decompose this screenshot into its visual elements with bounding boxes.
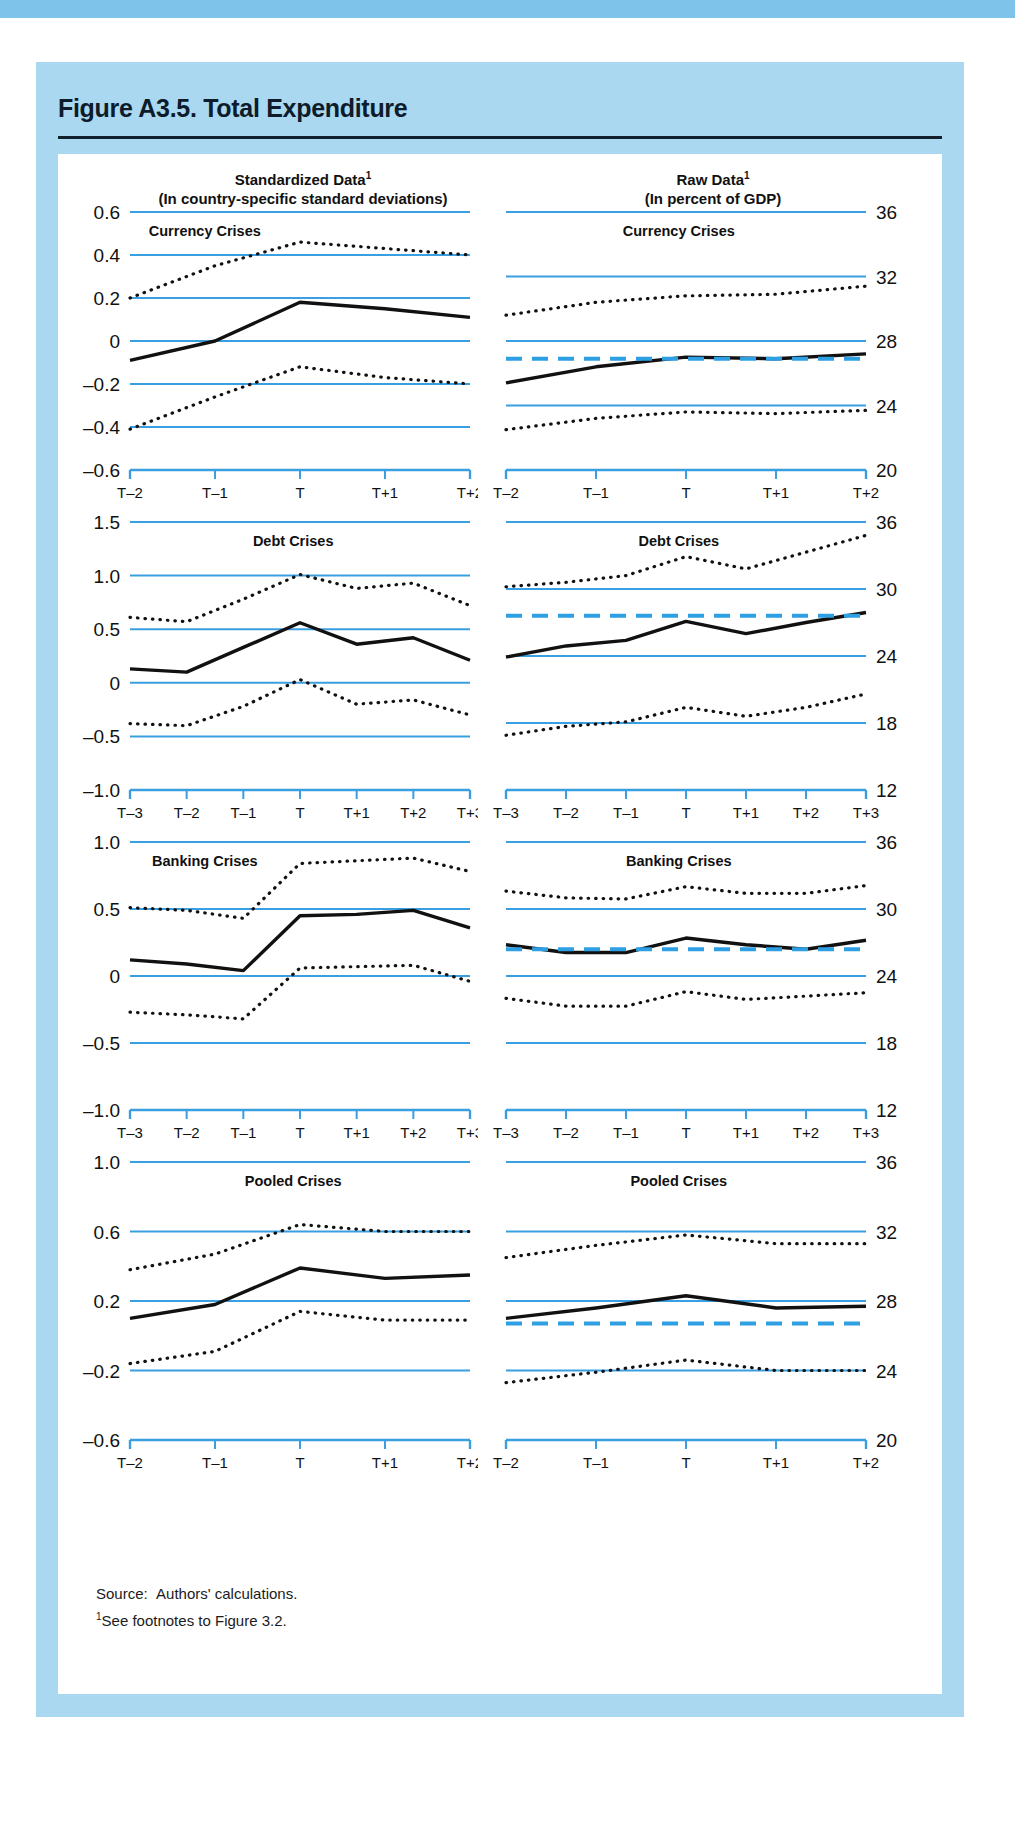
x-axis-tick-label: T–1 [583, 484, 609, 501]
x-axis-tick-label: T [681, 1124, 690, 1141]
figure-frame: Figure A3.5. Total Expenditure Standardi… [36, 62, 964, 1717]
y-axis-tick-label: 36 [876, 512, 897, 533]
y-axis-tick-label: 0 [109, 331, 120, 352]
panel-title: Banking Crises [152, 853, 258, 869]
y-axis-tick-label: 24 [876, 396, 898, 417]
x-axis-tick-label: T+1 [733, 804, 759, 821]
title-divider [58, 136, 942, 139]
y-axis-tick-label: 0.4 [94, 245, 121, 266]
y-axis-tick-label: –0.2 [83, 1361, 120, 1382]
y-axis-tick-label: 30 [876, 899, 897, 920]
x-axis-tick-label: T+1 [344, 804, 370, 821]
chart-panel-raw-pooled-crises: 2024283236T–2T–1TT+1T+2Pooled Crises [488, 1152, 928, 1482]
panel-title: Currency Crises [149, 223, 261, 239]
x-axis-tick-label: T+2 [793, 804, 819, 821]
chart-panel-standardized-debt-crises: –1.0–0.500.51.01.5T–3T–2T–1TT+1T+2T+3Deb… [68, 512, 478, 832]
x-axis-tick-label: T [295, 804, 304, 821]
series-lower-quartile [506, 410, 866, 429]
series-lower-quartile [506, 992, 866, 1007]
y-axis-tick-label: 0.6 [94, 202, 120, 223]
y-axis-tick-label: –0.6 [83, 460, 120, 481]
x-axis-tick-label: T+2 [457, 1454, 478, 1471]
y-axis-tick-label: 28 [876, 331, 897, 352]
series-median [506, 1296, 866, 1319]
y-axis-tick-label: 0.2 [94, 288, 120, 309]
top-decorative-bar [0, 0, 1015, 18]
series-upper-quartile [130, 575, 470, 622]
x-axis-tick-label: T–1 [583, 1454, 609, 1471]
y-axis-tick-label: 32 [876, 1222, 897, 1243]
panel-title: Currency Crises [623, 223, 735, 239]
y-axis-tick-label: 20 [876, 460, 897, 481]
y-axis-tick-label: 30 [876, 579, 897, 600]
page-title: Figure A3.5. Total Expenditure [58, 80, 942, 136]
x-axis-tick-label: T+3 [853, 1124, 879, 1141]
y-axis-tick-label: 18 [876, 713, 897, 734]
x-axis-tick-label: T+3 [853, 804, 879, 821]
series-upper-quartile [506, 886, 866, 899]
y-axis-tick-label: –1.0 [83, 1100, 120, 1121]
panel-title: Pooled Crises [630, 1173, 727, 1189]
series-median [130, 302, 470, 360]
column-heading-raw-line1: Raw Data [676, 171, 744, 188]
source-text: Authors' calculations. [156, 1585, 297, 1602]
y-axis-tick-label: 0 [109, 673, 120, 694]
x-axis-tick-label: T+2 [400, 1124, 426, 1141]
source-note: Source: Authors' calculations. 1See foot… [96, 1582, 297, 1632]
chart-panel-standardized-banking-crises: –1.0–0.500.51.0T–3T–2T–1TT+1T+2T+3Bankin… [68, 832, 478, 1152]
series-lower-quartile [506, 694, 866, 735]
y-axis-tick-label: 0.6 [94, 1222, 120, 1243]
y-axis-tick-label: 24 [876, 1361, 898, 1382]
x-axis-tick-label: T–2 [117, 1454, 143, 1471]
series-upper-quartile [506, 286, 866, 315]
y-axis-tick-label: 12 [876, 1100, 897, 1121]
x-axis-tick-label: T–1 [202, 484, 228, 501]
x-axis-tick-label: T [295, 1454, 304, 1471]
y-axis-tick-label: –0.4 [83, 417, 120, 438]
y-axis-tick-label: –0.6 [83, 1430, 120, 1451]
x-axis-tick-label: T+2 [457, 484, 478, 501]
y-axis-tick-label: –0.2 [83, 374, 120, 395]
y-axis-tick-label: 18 [876, 1033, 897, 1054]
x-axis-tick-label: T+1 [763, 484, 789, 501]
y-axis-tick-label: 28 [876, 1291, 897, 1312]
y-axis-tick-label: 20 [876, 1430, 897, 1451]
x-axis-tick-label: T+3 [457, 1124, 478, 1141]
x-axis-tick-label: T–2 [553, 804, 579, 821]
x-axis-tick-label: T+1 [372, 1454, 398, 1471]
panel-title: Debt Crises [253, 533, 334, 549]
column-heading-standardized-line1: Standardized Data [235, 171, 366, 188]
x-axis-tick-label: T+1 [763, 1454, 789, 1471]
panel-title: Banking Crises [626, 853, 732, 869]
x-axis-tick-label: T–3 [117, 1124, 143, 1141]
y-axis-tick-label: 0.5 [94, 899, 120, 920]
x-axis-tick-label: T–2 [553, 1124, 579, 1141]
y-axis-tick-label: 36 [876, 832, 897, 853]
chart-panel-raw-currency-crises: 2024283236T–2T–1TT+1T+2Currency Crises [488, 202, 928, 512]
y-axis-tick-label: –1.0 [83, 780, 120, 801]
x-axis-tick-label: T–1 [230, 1124, 256, 1141]
y-axis-tick-label: 0.5 [94, 619, 120, 640]
x-axis-tick-label: T–1 [613, 804, 639, 821]
y-axis-tick-label: 0 [109, 966, 120, 987]
x-axis-tick-label: T–3 [493, 1124, 519, 1141]
x-axis-tick-label: T–3 [117, 804, 143, 821]
x-axis-tick-label: T+2 [853, 1454, 879, 1471]
y-axis-tick-label: 32 [876, 267, 897, 288]
x-axis-tick-label: T–2 [174, 804, 200, 821]
x-axis-tick-label: T+2 [793, 1124, 819, 1141]
y-axis-tick-label: –0.5 [83, 726, 120, 747]
x-axis-tick-label: T+1 [344, 1124, 370, 1141]
x-axis-tick-label: T [295, 484, 304, 501]
chart-panel-standardized-currency-crises: –0.6–0.4–0.200.20.40.6T–2T–1TT+1T+2Curre… [68, 202, 478, 512]
series-upper-quartile [130, 242, 470, 298]
x-axis-tick-label: T+1 [733, 1124, 759, 1141]
y-axis-tick-label: 36 [876, 1152, 897, 1173]
footnote-text: See footnotes to Figure 3.2. [102, 1612, 287, 1629]
chart-panel-raw-debt-crises: 1218243036T–3T–2T–1TT+1T+2T+3Debt Crises [488, 512, 928, 832]
y-axis-tick-label: 24 [876, 646, 898, 667]
source-label: Source: [96, 1585, 148, 1602]
x-axis-tick-label: T+2 [400, 804, 426, 821]
series-lower-quartile [130, 367, 470, 429]
y-axis-tick-label: 1.0 [94, 566, 120, 587]
